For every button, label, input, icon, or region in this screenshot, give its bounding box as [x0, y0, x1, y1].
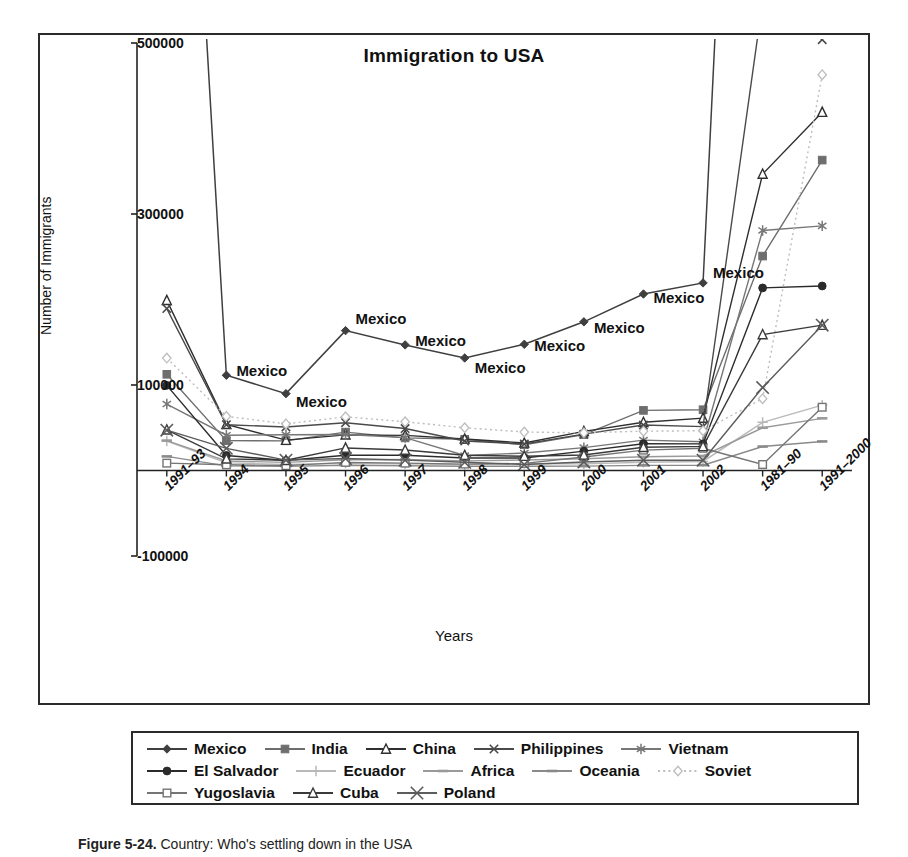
data-series — [167, 35, 822, 398]
legend-label: Ecuador — [343, 762, 405, 780]
legend-label: Oceania — [579, 762, 639, 780]
legend-label: Poland — [444, 784, 496, 802]
legend-item[interactable]: Vietnam — [619, 740, 744, 758]
legend-item[interactable]: India — [263, 740, 364, 758]
legend-item[interactable]: Cuba — [291, 784, 395, 802]
legend-marker-icon — [145, 785, 189, 801]
legend-item[interactable]: Philippines — [472, 740, 620, 758]
y-tick-label: 100000 — [137, 377, 144, 393]
y-tick-label: 500000 — [137, 35, 144, 51]
legend-label: Vietnam — [668, 740, 728, 758]
legend-row: MexicoIndiaChinaPhilippinesVietnam — [145, 738, 847, 760]
legend-item[interactable]: Mexico — [145, 740, 263, 758]
chart-svg — [40, 35, 868, 703]
legend-label: Cuba — [340, 784, 379, 802]
legend-label: Mexico — [194, 740, 247, 758]
legend-item[interactable]: China — [364, 740, 472, 758]
legend-marker-icon — [364, 741, 408, 757]
legend-row: YugoslaviaCubaPoland — [145, 782, 847, 804]
legend-marker-icon — [619, 741, 663, 757]
legend-marker-icon — [472, 741, 516, 757]
legend-marker-icon — [263, 741, 307, 757]
legend-marker-icon — [291, 785, 335, 801]
plot-area: 500000300000100000-1000001991–9319941995… — [40, 35, 868, 703]
chart-frame: Immigration to USA Number of Immigrants … — [38, 33, 870, 705]
data-series — [163, 282, 826, 464]
legend-item[interactable]: El Salvador — [145, 762, 294, 780]
legend-label: El Salvador — [194, 762, 278, 780]
legend-label: Yugoslavia — [194, 784, 275, 802]
legend-marker-icon — [145, 741, 189, 757]
legend-label: Philippines — [521, 740, 604, 758]
legend-label: China — [413, 740, 456, 758]
figure-caption: Figure 5-24. Country: Who's settling dow… — [78, 836, 412, 852]
chart-legend: MexicoIndiaChinaPhilippinesVietnamEl Sal… — [131, 731, 859, 805]
legend-label: India — [312, 740, 348, 758]
legend-item[interactable]: Africa — [421, 762, 530, 780]
legend-marker-icon — [421, 763, 465, 779]
legend-marker-icon — [530, 763, 574, 779]
caption-label: Figure 5-24. — [78, 836, 157, 852]
legend-item[interactable]: Poland — [395, 784, 512, 802]
legend-row: El SalvadorEcuadorAfricaOceaniaSoviet — [145, 760, 847, 782]
data-series — [163, 156, 826, 448]
legend-label: Africa — [470, 762, 514, 780]
legend-marker-icon — [294, 763, 338, 779]
y-tick-label: -100000 — [137, 548, 144, 564]
series-lines — [161, 35, 829, 471]
data-series — [162, 107, 826, 447]
legend-marker-icon — [145, 763, 189, 779]
data-series — [161, 319, 829, 471]
legend-item[interactable]: Ecuador — [294, 762, 421, 780]
y-tick-label: 300000 — [137, 206, 144, 222]
legend-label: Soviet — [705, 762, 752, 780]
legend-item[interactable]: Soviet — [656, 762, 768, 780]
caption-text: Country: Who's settling down in the USA — [160, 836, 412, 852]
legend-item[interactable]: Oceania — [530, 762, 655, 780]
legend-marker-icon — [395, 785, 439, 801]
legend-marker-icon — [656, 763, 700, 779]
figure-root: Immigration to USA Number of Immigrants … — [0, 0, 908, 857]
legend-item[interactable]: Yugoslavia — [145, 784, 291, 802]
